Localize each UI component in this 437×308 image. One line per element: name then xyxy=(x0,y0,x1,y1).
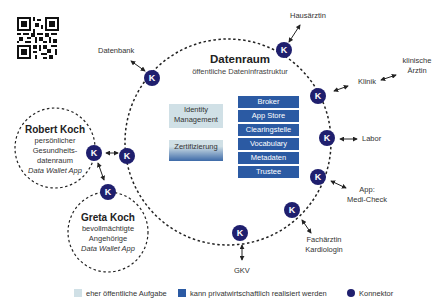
arrow-robert-greta xyxy=(98,163,104,180)
connector-gkv: K xyxy=(232,225,248,241)
connector-datenbank: K xyxy=(144,70,160,86)
connector-greta: K xyxy=(100,184,116,200)
datenraum-subtitle: öffentliche Dateninfrastruktur xyxy=(190,67,290,77)
arrow-klinische-aerztin xyxy=(381,75,396,80)
label-app-1: App: xyxy=(345,185,389,195)
robert-name: Robert Koch xyxy=(20,124,90,136)
label-klinische-aerztin-2: Ärztin xyxy=(400,66,434,76)
legend-private-label: kann privatwirtschaftlich realisiert wer… xyxy=(190,289,327,298)
label-gkv: GKV xyxy=(234,266,250,276)
identity-label-2: Management xyxy=(169,115,223,125)
robert-line-1: persönlicher xyxy=(20,136,90,146)
robert-line-3: datenraum xyxy=(20,156,90,166)
legend-connector-label: Konnektor xyxy=(359,289,393,298)
app-store-box: App Store xyxy=(238,110,299,122)
arrow-klinik xyxy=(334,86,348,91)
label-fachaerztin: Fachärztin Kardiologin xyxy=(300,235,348,255)
label-fachaerztin-2: Kardiologin xyxy=(300,245,348,255)
arrow-hausaerztin xyxy=(289,25,300,42)
connector-app: K xyxy=(310,169,326,185)
connector-legend-icon xyxy=(347,289,355,297)
trustee-box: Trustee xyxy=(238,166,299,178)
vocabulary-box: Vocabulary xyxy=(238,138,299,150)
label-hausaerztin: Hausärztin xyxy=(290,11,326,21)
arrow-datenbank xyxy=(131,61,145,71)
robert-line-2: Gesundheits- xyxy=(20,146,90,156)
connector-klinik: K xyxy=(310,88,326,104)
arrow-fachaerztin xyxy=(302,220,311,233)
connector-labor: K xyxy=(319,130,335,146)
legend-public-label: eher öffentliche Aufgabe xyxy=(86,289,167,298)
label-klinik: Klinik xyxy=(358,77,376,87)
zertifizierung-label: Zertifizierung xyxy=(174,142,217,151)
legend-private-swatch xyxy=(178,289,186,297)
legend-public-swatch xyxy=(74,289,82,297)
identity-management-box: Identity Management xyxy=(169,104,223,128)
greta-line-1: bevollmächtigte xyxy=(73,224,143,234)
legend-public: eher öffentliche Aufgabe xyxy=(74,289,167,298)
greta-app: Data Wallet App xyxy=(73,244,143,254)
greta-name: Greta Koch xyxy=(73,212,143,224)
connector-hausaerztin: K xyxy=(276,42,292,58)
label-datenbank: Datenbank xyxy=(98,46,134,56)
identity-label-1: Identity xyxy=(169,105,223,115)
clearingstelle-box: Clearingstelle xyxy=(238,124,299,136)
label-app-2: Medi-Check xyxy=(345,195,389,205)
robert-app: Data Wallet App xyxy=(20,166,90,176)
label-klinische-aerztin: klinische Ärztin xyxy=(400,56,434,76)
greta-line-2: Angehörige xyxy=(73,234,143,244)
legend-connector: Konnektor xyxy=(347,289,393,298)
label-klinische-aerztin-1: klinische xyxy=(400,56,434,66)
arrow-app xyxy=(331,181,346,188)
metadaten-box: Metadaten xyxy=(238,152,299,164)
zertifizierung-box: Zertifizierung xyxy=(169,140,223,161)
connector-fachaerztin: K xyxy=(284,202,300,218)
label-labor: Labor xyxy=(362,134,381,144)
legend-private: kann privatwirtschaftlich realisiert wer… xyxy=(178,289,327,298)
label-app: App: Medi-Check xyxy=(345,185,389,205)
robert-koch-block: Robert Koch persönlicher Gesundheits- da… xyxy=(20,124,90,176)
broker-box: Broker xyxy=(238,96,299,108)
connector-datenraum-left: K xyxy=(119,148,135,164)
datenraum-title: Datenraum xyxy=(200,54,280,64)
label-fachaerztin-1: Fachärztin xyxy=(300,235,348,245)
greta-koch-block: Greta Koch bevollmächtigte Angehörige Da… xyxy=(73,212,143,254)
